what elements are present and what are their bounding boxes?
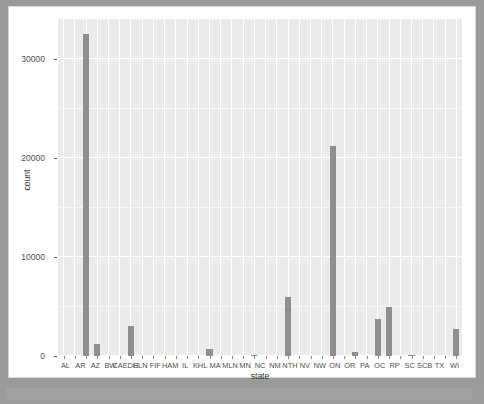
x-tick-mark [344, 356, 345, 359]
x-tick-label: WI [450, 361, 459, 370]
x-tick-mark [97, 356, 98, 359]
bar [375, 319, 381, 356]
x-tick-mark [198, 356, 199, 359]
x-tick-mark [120, 356, 121, 359]
x-tick-mark [367, 356, 368, 359]
x-tick-label: PA [360, 361, 369, 370]
x-tick-label: ON [329, 361, 340, 370]
x-tick-label: NW [314, 361, 326, 370]
x-tick-mark [131, 356, 132, 359]
x-tick-label: NTH [282, 361, 297, 370]
x-tick-label: NC [255, 361, 266, 370]
x-tick-mark [333, 356, 334, 359]
x-tick-label: MLN [222, 361, 238, 370]
x-tick-mark [232, 356, 233, 359]
x-tick-label: AL [61, 361, 70, 370]
x-tick-mark [400, 356, 401, 359]
x-tick-mark [176, 356, 177, 359]
x-tick-label: KHL [193, 361, 207, 370]
x-tick-label: FIF [150, 361, 161, 370]
x-tick-label: AZ [91, 361, 100, 370]
bar [94, 344, 100, 356]
y-tick-mark [54, 257, 57, 258]
x-tick-mark [299, 356, 300, 359]
x-tick-mark [412, 356, 413, 359]
x-tick-mark [165, 356, 166, 359]
x-tick-mark [445, 356, 446, 359]
bar [128, 326, 134, 356]
bars-layer [58, 19, 462, 356]
y-axis-title: count [22, 150, 32, 210]
bar [206, 349, 212, 356]
y-tick-mark [54, 356, 57, 357]
bar [386, 307, 392, 356]
x-tick-label: MA [210, 361, 221, 370]
bar [83, 34, 89, 356]
x-tick-mark [311, 356, 312, 359]
x-tick-label: OR [344, 361, 355, 370]
x-tick-mark [221, 356, 222, 359]
x-tick-mark [277, 356, 278, 359]
x-tick-mark [153, 356, 154, 359]
x-tick-label: SC [404, 361, 414, 370]
x-tick-label: RP [390, 361, 400, 370]
x-tick-label: AR [75, 361, 85, 370]
x-tick-label: OC [374, 361, 385, 370]
application-window: 0100002000030000 count ALARAZBWCAEDHELNF… [0, 0, 484, 404]
x-tick-mark [187, 356, 188, 359]
x-tick-mark [355, 356, 356, 359]
x-tick-label: MN [239, 361, 251, 370]
x-tick-mark [288, 356, 289, 359]
y-tick-label: 30000 [21, 54, 45, 64]
x-tick-mark [142, 356, 143, 359]
bar [330, 146, 336, 356]
x-tick-mark [64, 356, 65, 359]
y-tick-label: 10000 [21, 252, 45, 262]
x-tick-mark [456, 356, 457, 359]
status-bar-content [6, 388, 472, 400]
x-tick-mark [75, 356, 76, 359]
x-tick-label: IL [182, 361, 188, 370]
x-tick-mark [322, 356, 323, 359]
plot-panel [58, 19, 462, 356]
y-tick-mark [54, 158, 57, 159]
x-axis-title: state [58, 371, 462, 381]
x-tick-mark [434, 356, 435, 359]
x-tick-mark [243, 356, 244, 359]
chart-window-frame: 0100002000030000 count ALARAZBWCAEDHELNF… [8, 6, 476, 378]
x-tick-label: NM [269, 361, 281, 370]
bar [453, 329, 459, 356]
y-tick-mark [54, 59, 57, 60]
x-tick-mark [109, 356, 110, 359]
x-tick-mark [86, 356, 87, 359]
bar [285, 297, 291, 356]
status-bar [0, 384, 484, 404]
x-tick-mark [210, 356, 211, 359]
x-tick-mark [254, 356, 255, 359]
x-tick-mark [266, 356, 267, 359]
x-tick-mark [389, 356, 390, 359]
x-tick-label: SCB [417, 361, 432, 370]
x-tick-mark [378, 356, 379, 359]
plot-root: 0100002000030000 count ALARAZBWCAEDHELNF… [9, 7, 477, 379]
x-tick-label: ELN [133, 361, 147, 370]
x-tick-label: NV [300, 361, 310, 370]
x-tick-label: TX [435, 361, 444, 370]
y-tick-label: 0 [40, 351, 45, 361]
x-tick-label: HAM [162, 361, 178, 370]
x-tick-mark [423, 356, 424, 359]
